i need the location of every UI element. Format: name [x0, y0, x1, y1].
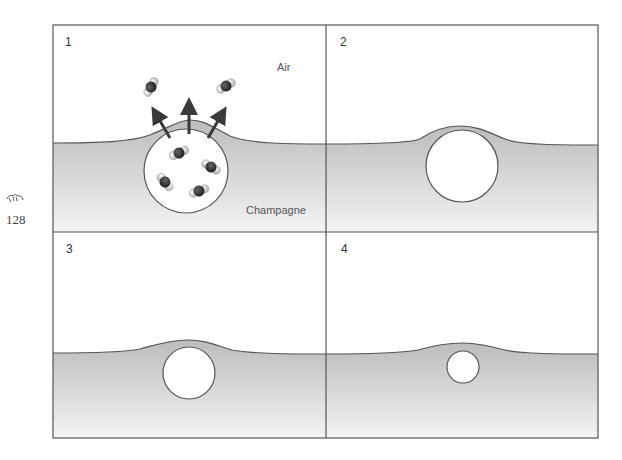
champagne-label: Champagne	[246, 204, 306, 216]
panel-number-4: 4	[341, 242, 348, 256]
panel-number-2: 2	[340, 35, 347, 49]
panel-number-1: 1	[65, 35, 72, 49]
panel-number-3: 3	[66, 242, 73, 256]
panel-1: 1 Air Champagne	[53, 35, 326, 232]
air-label: Air	[277, 61, 291, 73]
panel-3: 3	[53, 242, 326, 438]
panel-4: 4	[326, 242, 598, 438]
panel-2: 2	[326, 35, 598, 232]
champagne-bubble-diagram: 1 Air Champagne 2 3 4	[0, 0, 622, 460]
